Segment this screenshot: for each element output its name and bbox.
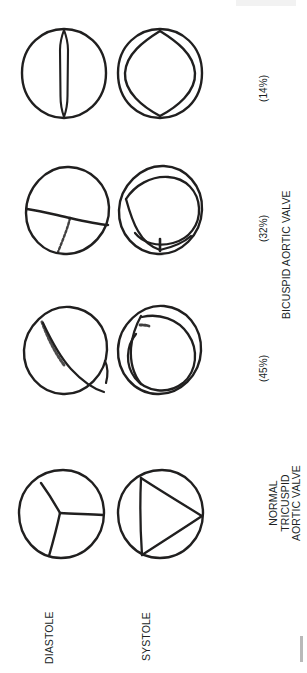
group-label-normal-line-1: NORMAL <box>268 465 280 541</box>
row-label-diastole: DIASTOLE <box>43 611 55 664</box>
row-label-systole: SYSTOLE <box>140 612 152 661</box>
percent-label-bicuspid-14: (14%) <box>258 75 269 102</box>
valve-diagram-bicuspid-32-diastole <box>20 163 116 259</box>
group-label-normal-line-3: AORTIC VALVE <box>291 465 303 541</box>
group-label-normal-tricuspid-aortic-valve: NORMAL TRICUSPID AORTIC VALVE <box>268 465 303 541</box>
valve-diagram-normal-tricuspid-systole <box>112 466 208 562</box>
scan-edge-artifact <box>300 636 303 662</box>
valve-diagram-bicuspid-45-diastole <box>18 303 114 399</box>
group-label-bicuspid-aortic-valve: BICUSPID AORTIC VALVE <box>281 190 293 319</box>
valve-diagram-bicuspid-32-systole <box>113 163 209 259</box>
valve-diagram-bicuspid-14-diastole <box>16 26 112 122</box>
valve-diagram-normal-tricuspid-diastole <box>13 466 109 562</box>
scan-corner-smudge <box>236 0 296 6</box>
percent-label-bicuspid-32: (32%) <box>258 215 269 242</box>
percent-label-bicuspid-45: (45%) <box>258 355 269 382</box>
valve-diagram-bicuspid-14-systole <box>112 26 208 122</box>
aortic-valve-figure: DIASTOLE SYSTOLE (14%) (32%) (45%) BICUS… <box>0 0 307 673</box>
group-label-bicuspid-line-1: BICUSPID AORTIC VALVE <box>281 190 293 319</box>
valve-diagram-bicuspid-45-systole <box>112 303 208 399</box>
